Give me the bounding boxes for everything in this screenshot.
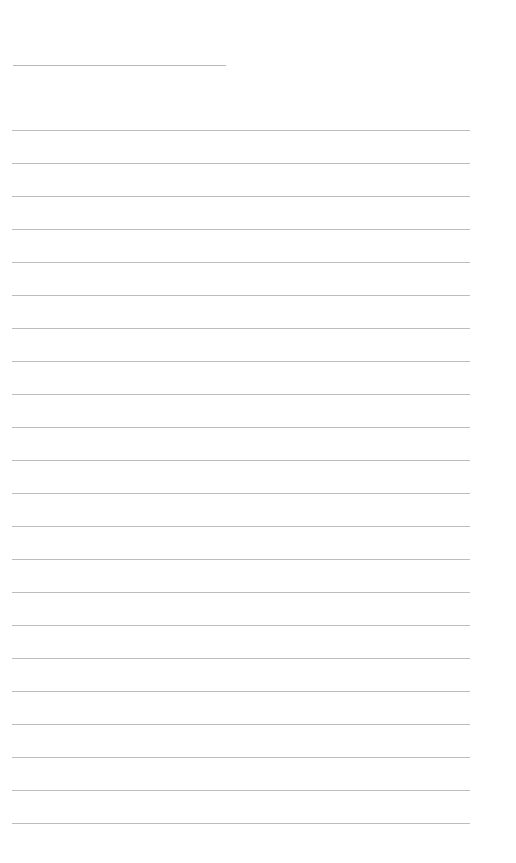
title-line [13, 65, 226, 66]
ruled-line [12, 790, 470, 791]
ruled-line [12, 823, 470, 824]
ruled-line [12, 196, 470, 197]
ruled-line [12, 163, 470, 164]
ruled-line [12, 526, 470, 527]
ruled-line [12, 427, 470, 428]
ruled-line [12, 625, 470, 626]
ruled-line [12, 295, 470, 296]
ruled-line [12, 130, 470, 131]
ruled-line [12, 361, 470, 362]
ruled-line [12, 229, 470, 230]
ruled-line [12, 592, 470, 593]
ruled-line [12, 724, 470, 725]
ruled-line [12, 559, 470, 560]
ruled-line [12, 658, 470, 659]
ruled-line [12, 493, 470, 494]
ruled-line [12, 757, 470, 758]
ruled-line [12, 262, 470, 263]
ruled-line [12, 691, 470, 692]
ruled-line [12, 460, 470, 461]
ruled-line [12, 328, 470, 329]
ruled-line [12, 394, 470, 395]
